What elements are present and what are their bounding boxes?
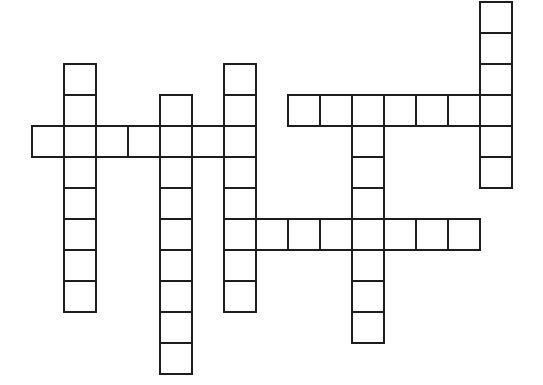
crossword-cell[interactable] <box>63 125 97 158</box>
crossword-cell[interactable] <box>159 218 193 251</box>
crossword-cell[interactable] <box>479 1 513 34</box>
crossword-cell[interactable] <box>351 94 385 127</box>
crossword-cell[interactable] <box>63 63 97 96</box>
crossword-cell[interactable] <box>383 218 417 251</box>
crossword-cell[interactable] <box>223 218 257 251</box>
crossword-cell[interactable] <box>159 249 193 282</box>
crossword-cell[interactable] <box>319 218 353 251</box>
crossword-cell[interactable] <box>351 218 385 251</box>
crossword-cell[interactable] <box>447 94 481 127</box>
crossword-cell[interactable] <box>63 280 97 313</box>
crossword-cell[interactable] <box>223 94 257 127</box>
crossword-cell[interactable] <box>351 187 385 220</box>
crossword-cell[interactable] <box>351 311 385 344</box>
crossword-cell[interactable] <box>63 249 97 282</box>
crossword-cell[interactable] <box>159 156 193 189</box>
crossword-cell[interactable] <box>223 156 257 189</box>
crossword-cell[interactable] <box>479 156 513 189</box>
crossword-cell[interactable] <box>223 63 257 96</box>
crossword-cell[interactable] <box>287 94 321 127</box>
crossword-cell[interactable] <box>159 311 193 344</box>
crossword-cell[interactable] <box>351 280 385 313</box>
crossword-cell[interactable] <box>63 94 97 127</box>
crossword-cell[interactable] <box>255 218 289 251</box>
crossword-cell[interactable] <box>223 249 257 282</box>
crossword-cell[interactable] <box>351 249 385 282</box>
crossword-cell[interactable] <box>351 125 385 158</box>
crossword-cell[interactable] <box>159 125 193 158</box>
crossword-cell[interactable] <box>63 156 97 189</box>
crossword-cell[interactable] <box>159 280 193 313</box>
crossword-cell[interactable] <box>223 125 257 158</box>
crossword-cell[interactable] <box>159 94 193 127</box>
crossword-cell[interactable] <box>447 218 481 251</box>
crossword-cell[interactable] <box>95 125 129 158</box>
crossword-cell[interactable] <box>287 218 321 251</box>
crossword-cell[interactable] <box>159 342 193 375</box>
crossword-cell[interactable] <box>479 125 513 158</box>
crossword-cell[interactable] <box>63 218 97 251</box>
crossword-grid <box>0 0 543 385</box>
crossword-cell[interactable] <box>223 280 257 313</box>
crossword-cell[interactable] <box>479 94 513 127</box>
crossword-cell[interactable] <box>479 63 513 96</box>
crossword-cell[interactable] <box>415 218 449 251</box>
crossword-cell[interactable] <box>319 94 353 127</box>
crossword-cell[interactable] <box>479 32 513 65</box>
crossword-cell[interactable] <box>31 125 65 158</box>
crossword-cell[interactable] <box>351 156 385 189</box>
crossword-cell[interactable] <box>415 94 449 127</box>
crossword-cell[interactable] <box>383 94 417 127</box>
crossword-cell[interactable] <box>63 187 97 220</box>
crossword-cell[interactable] <box>223 187 257 220</box>
crossword-cell[interactable] <box>127 125 161 158</box>
crossword-cell[interactable] <box>159 187 193 220</box>
crossword-cell[interactable] <box>191 125 225 158</box>
